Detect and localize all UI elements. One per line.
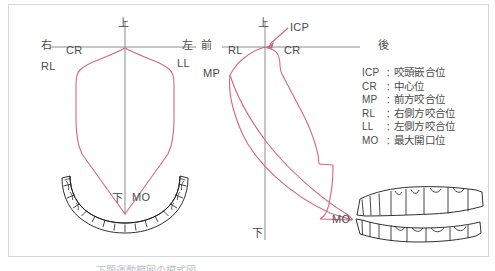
sagittal-axis-label-down: 下 xyxy=(252,228,263,239)
sagittal-label-mp: MP xyxy=(203,68,220,79)
legend-abbr-icp: ICP xyxy=(362,67,386,80)
lateral-teeth-drawing xyxy=(356,187,483,242)
legend-abbr-cr: CR xyxy=(362,81,386,94)
legend-item-mp: MP ： 前方咬合位 xyxy=(362,93,455,107)
legend-term-mp: 前方咬合位 xyxy=(394,93,445,106)
legend-abbr-ll: LL xyxy=(362,121,386,134)
sagittal-axis-label-front: 前 xyxy=(201,40,212,51)
legend-colon-rl: ： xyxy=(386,108,394,121)
sagittal-label-cr: CR xyxy=(284,45,301,56)
frontal-label-rl: RL xyxy=(41,61,56,72)
frontal-axis-label-right: 右 xyxy=(41,40,52,51)
frontal-axis-label-left: 左 xyxy=(182,40,193,51)
legend-term-mo: 最大開口位 xyxy=(394,134,445,147)
sagittal-axis-label-back: 後 xyxy=(378,40,389,51)
legend-abbr-mp: MP xyxy=(362,94,386,107)
legend-item-mo: MO ： 最大開口位 xyxy=(362,134,455,148)
legend-abbr-mo: MO xyxy=(362,135,386,148)
legend-colon-ll: ： xyxy=(386,121,394,134)
legend-colon-cr: ： xyxy=(386,81,394,94)
sagittal-axis-label-up: 上 xyxy=(258,18,269,29)
sagittal-posselt-curve xyxy=(230,47,354,220)
legend-colon-icp: ： xyxy=(386,67,394,80)
legend-colon-mp: ： xyxy=(386,94,394,107)
legend-colon-mo: ： xyxy=(386,135,394,148)
sagittal-label-icp: ICP xyxy=(290,22,309,33)
posselt-envelope-figure: 右 左 上 下 CR RL LL MO 前 後 上 下 ICP CR RL MP… xyxy=(0,0,495,271)
legend-term-cr: 中心位 xyxy=(394,80,425,93)
figure-caption: 下顕運動範囲の模式図 xyxy=(96,262,196,271)
legend-term-icp: 咬頭嵌合位 xyxy=(394,66,445,79)
frontal-axis-label-down: 下 xyxy=(112,193,123,204)
frontal-label-ll: LL xyxy=(177,58,190,69)
legend-item-rl: RL ： 右側方咬合位 xyxy=(362,107,455,121)
legend-term-ll: 左側方咬合位 xyxy=(394,120,455,133)
legend-item-icp: ICP ： 咬頭嵌合位 xyxy=(362,66,455,80)
legend-term-rl: 右側方咬合位 xyxy=(394,107,455,120)
legend-item-cr: CR ： 中心位 xyxy=(362,80,455,94)
legend-abbr-rl: RL xyxy=(362,108,386,121)
frontal-label-mo: MO xyxy=(132,192,150,203)
legend: ICP ： 咬頭嵌合位 CR ： 中心位 MP ： 前方咬合位 RL ： 右側方… xyxy=(362,66,455,148)
sagittal-label-mo: MO xyxy=(332,214,350,225)
sagittal-label-rl: RL xyxy=(228,45,243,56)
legend-item-ll: LL ： 左側方咬合位 xyxy=(362,120,455,134)
frontal-axis-label-up: 上 xyxy=(118,18,129,29)
frontal-label-cr: CR xyxy=(66,45,83,56)
